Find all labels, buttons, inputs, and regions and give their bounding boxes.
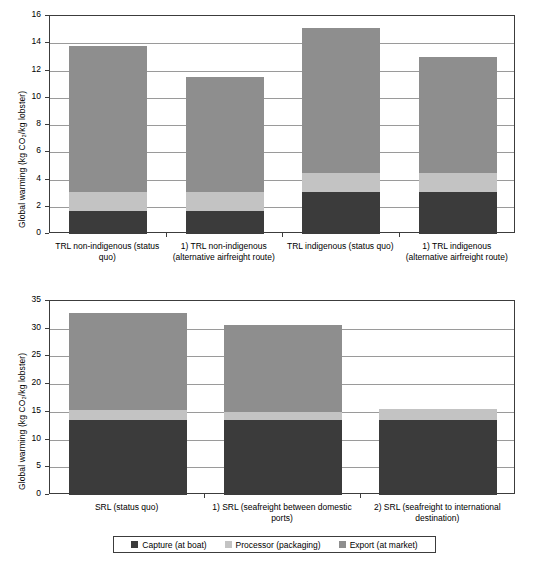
legend-item[interactable]: Processor (packaging) (225, 540, 321, 550)
y-axis-tick-label: 0 (15, 488, 41, 498)
bar-stack[interactable] (224, 301, 342, 495)
bar-stack[interactable] (69, 301, 187, 495)
bar-segment-capture[interactable] (69, 420, 187, 495)
legend-swatch-capture-icon (131, 541, 138, 548)
y-axis-tick-label: 15 (15, 405, 41, 415)
y-axis-tick (45, 411, 49, 412)
bar-segment-capture[interactable] (224, 420, 342, 495)
chart-page: Global warming (kg CO₂/kg lobster) 02468… (0, 0, 545, 564)
y-axis-tick (45, 300, 49, 301)
y-axis-tick (45, 355, 49, 356)
y-axis-tick (45, 439, 49, 440)
y-axis-tick (45, 328, 49, 329)
bar-segment-export[interactable] (224, 325, 342, 412)
bar-segment-processor[interactable] (379, 409, 497, 420)
x-axis-category-label: 1) SRL (seafreight between domestic port… (206, 502, 357, 524)
legend-item[interactable]: Capture (at boat) (131, 540, 206, 550)
y-axis-tick (45, 466, 49, 467)
x-axis-tick (204, 494, 205, 498)
bar-stack[interactable] (379, 301, 497, 495)
x-axis-category-label: 2) SRL (seafreight to international dest… (362, 502, 513, 524)
legend: Capture (at boat)Processor (packaging)Ex… (113, 536, 436, 553)
bar-segment-capture[interactable] (379, 420, 497, 495)
y-axis-tick-label: 30 (15, 322, 41, 332)
legend-label: Export (at market) (350, 540, 418, 550)
plot-area-bottom (49, 300, 515, 494)
y-axis-tick (45, 494, 49, 495)
x-axis-category-label: SRL (status quo) (51, 502, 202, 513)
y-axis-tick-label: 10 (15, 433, 41, 443)
y-axis-tick-label: 5 (15, 460, 41, 470)
legend-swatch-export-icon (339, 541, 346, 548)
legend-item[interactable]: Export (at market) (339, 540, 418, 550)
legend-label: Capture (at boat) (142, 540, 206, 550)
legend-label: Processor (packaging) (236, 540, 321, 550)
bar-segment-export[interactable] (69, 313, 187, 409)
legend-swatch-processor-icon (225, 541, 232, 548)
x-axis-tick (360, 494, 361, 498)
y-axis-tick (45, 383, 49, 384)
bar-segment-processor[interactable] (69, 410, 187, 420)
chart-panel-bottom: Global warming (kg CO₂/kg lobster) 05101… (0, 0, 545, 564)
bar-segment-processor[interactable] (224, 412, 342, 420)
y-axis-tick-label: 25 (15, 349, 41, 359)
y-axis-tick-label: 35 (15, 294, 41, 304)
y-axis-tick-label: 20 (15, 377, 41, 387)
